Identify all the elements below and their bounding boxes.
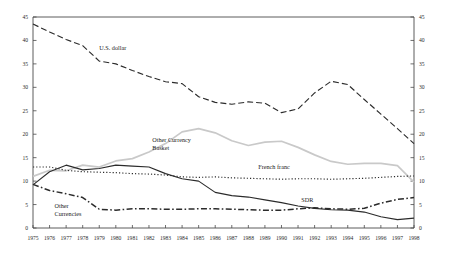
x-axis-label: 1992	[309, 235, 320, 241]
x-axis-label: 1993	[326, 235, 337, 241]
y-axis-label-left: 20	[22, 131, 28, 137]
x-axis-label: 1984	[176, 235, 187, 241]
series-label-other-currencies: OtherCurrencies	[55, 202, 82, 217]
x-axis-label: 1987	[226, 235, 237, 241]
x-axis-label: 1979	[94, 235, 105, 241]
x-axis-label: 1996	[375, 235, 386, 241]
y-axis-label-right: 15	[419, 155, 425, 161]
y-axis-label-right: 45	[419, 14, 425, 20]
x-axis-label: 1995	[359, 235, 370, 241]
y-axis-label-left: 40	[22, 37, 28, 43]
y-axis-label-right: 25	[419, 108, 425, 114]
x-axis-label: 1981	[127, 235, 138, 241]
y-axis-label-left: 45	[22, 14, 28, 20]
series-label-sdr: SDR	[301, 196, 314, 203]
x-axis-label: 1983	[160, 235, 171, 241]
series-line-sdr	[33, 165, 414, 219]
y-axis-label-left: 5	[25, 202, 28, 208]
x-axis-label: 1991	[292, 235, 303, 241]
series-line-other-currency-basket	[33, 129, 414, 182]
x-axis-label: 1980	[110, 235, 121, 241]
chart-container: 0055101015152020252530303535404045451975…	[0, 0, 453, 258]
y-axis-label-right: 10	[419, 178, 425, 184]
series-line-u-s-dollar	[33, 24, 414, 144]
x-axis-label: 1994	[342, 235, 353, 241]
x-axis-label: 1990	[276, 235, 287, 241]
x-axis-label: 1997	[392, 235, 403, 241]
series-line-other-currencies	[33, 184, 414, 210]
x-axis-label: 1976	[44, 235, 55, 241]
x-axis-label: 1988	[243, 235, 254, 241]
x-axis-label: 1978	[77, 235, 88, 241]
y-axis-label-right: 35	[419, 61, 425, 67]
x-axis-label: 1986	[210, 235, 221, 241]
y-axis-label-right: 0	[419, 225, 422, 231]
x-axis-label: 1989	[259, 235, 270, 241]
y-axis-label-left: 35	[22, 61, 28, 67]
x-axis-label: 1977	[61, 235, 72, 241]
line-chart: 0055101015152020252530303535404045451975…	[0, 0, 453, 258]
x-axis-label: 1998	[408, 235, 419, 241]
series-label-french-franc: French franc	[258, 163, 290, 170]
x-axis-label: 1985	[193, 235, 204, 241]
y-axis-label-left: 0	[25, 225, 28, 231]
y-axis-label-left: 15	[22, 155, 28, 161]
y-axis-label-left: 10	[22, 178, 28, 184]
y-axis-label-right: 40	[419, 37, 425, 43]
x-axis-label: 1975	[27, 235, 38, 241]
y-axis-label-left: 25	[22, 108, 28, 114]
series-label-other-currency-basket: Other CurrencyBasket	[152, 136, 192, 151]
y-axis-label-right: 5	[419, 202, 422, 208]
x-axis-label: 1982	[143, 235, 154, 241]
y-axis-label-right: 30	[419, 84, 425, 90]
y-axis-label-right: 20	[419, 131, 425, 137]
series-label-u-s-dollar: U.S. dollar	[99, 44, 126, 51]
y-axis-label-left: 30	[22, 84, 28, 90]
